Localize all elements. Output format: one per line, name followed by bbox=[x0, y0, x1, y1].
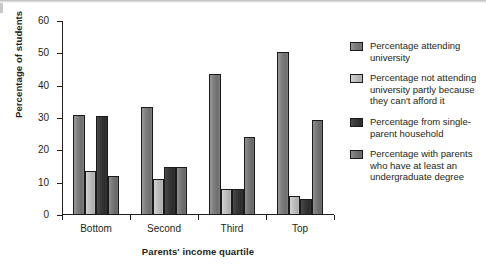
legend-item: Percentage with parents who have at leas… bbox=[350, 148, 482, 183]
x-tick-mark bbox=[266, 215, 267, 220]
plot-area: 0102030405060 BottomSecondThirdTop bbox=[62, 21, 334, 215]
scan-edge-top bbox=[0, 0, 486, 3]
y-tick-mark: 60 bbox=[57, 21, 62, 22]
chart-page: Percentage of students 0102030405060 Bot… bbox=[0, 0, 486, 270]
legend-swatch-icon bbox=[350, 74, 363, 83]
x-tick-mark bbox=[198, 215, 199, 220]
y-tick-mark: 20 bbox=[57, 150, 62, 151]
y-tick-mark: 40 bbox=[57, 86, 62, 87]
legend-label: Percentage with parents who have at leas… bbox=[370, 148, 482, 183]
x-tick-mark bbox=[62, 215, 63, 220]
x-axis-title: Parents' income quartile bbox=[62, 246, 334, 257]
legend-label: Percentage not attending university part… bbox=[370, 72, 482, 107]
bar bbox=[176, 167, 188, 216]
legend-swatch-icon bbox=[350, 42, 363, 51]
bar bbox=[108, 176, 120, 215]
y-axis-title: Percentage of students bbox=[13, 11, 24, 118]
bar bbox=[164, 167, 176, 216]
x-tick-mark bbox=[130, 215, 131, 220]
scan-edge-left bbox=[0, 3, 3, 13]
x-tick-label: Top bbox=[292, 224, 308, 234]
legend-label: Percentage from single-parent household bbox=[370, 116, 482, 139]
legend-item: Percentage attending university bbox=[350, 40, 482, 63]
y-axis-line bbox=[62, 21, 63, 215]
legend: Percentage attending universityPercentag… bbox=[350, 40, 482, 192]
y-tick-label: 10 bbox=[38, 178, 49, 188]
x-tick-mark bbox=[334, 215, 335, 220]
legend-item: Percentage not attending university part… bbox=[350, 72, 482, 107]
bar bbox=[244, 137, 256, 215]
bar bbox=[277, 52, 289, 215]
bar bbox=[312, 120, 324, 215]
legend-item: Percentage from single-parent household bbox=[350, 116, 482, 139]
y-tick-label: 0 bbox=[43, 210, 49, 220]
legend-swatch-icon bbox=[350, 118, 363, 127]
y-tick-mark: 30 bbox=[57, 118, 62, 119]
y-tick-label: 30 bbox=[38, 113, 49, 123]
bar bbox=[289, 196, 301, 215]
bar bbox=[96, 116, 108, 215]
bar bbox=[153, 179, 165, 215]
bar bbox=[85, 171, 97, 215]
y-tick-label: 60 bbox=[38, 16, 49, 26]
x-tick-label: Third bbox=[221, 224, 244, 234]
bar bbox=[221, 189, 233, 215]
x-tick-label: Bottom bbox=[80, 224, 112, 234]
bar bbox=[73, 115, 85, 215]
y-tick-label: 50 bbox=[38, 48, 49, 58]
y-tick-mark: 50 bbox=[57, 53, 62, 54]
bar bbox=[141, 107, 153, 215]
bar bbox=[232, 189, 244, 215]
legend-swatch-icon bbox=[350, 150, 363, 159]
y-tick-mark: 10 bbox=[57, 183, 62, 184]
bar bbox=[209, 74, 221, 215]
y-tick-label: 40 bbox=[38, 81, 49, 91]
y-tick-label: 20 bbox=[38, 145, 49, 155]
legend-label: Percentage attending university bbox=[370, 40, 482, 63]
x-tick-label: Second bbox=[147, 224, 181, 234]
bar bbox=[300, 199, 312, 215]
